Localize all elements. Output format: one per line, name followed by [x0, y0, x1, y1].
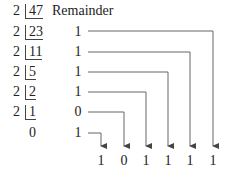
arrow-row-4 — [88, 92, 146, 146]
arrow-row-6 — [88, 133, 101, 146]
result-bit-0: 1 — [96, 154, 106, 168]
result-bit-1: 0 — [119, 154, 129, 168]
result-bit-2: 1 — [141, 154, 151, 168]
remainder-arrows — [0, 0, 227, 172]
result-bit-4: 1 — [185, 154, 195, 168]
arrow-row-1 — [88, 31, 213, 146]
arrow-row-3 — [88, 72, 168, 146]
result-bit-5: 1 — [208, 154, 218, 168]
result-bit-3: 1 — [163, 154, 173, 168]
arrow-row-2 — [88, 52, 190, 146]
arrow-row-5 — [88, 112, 124, 146]
